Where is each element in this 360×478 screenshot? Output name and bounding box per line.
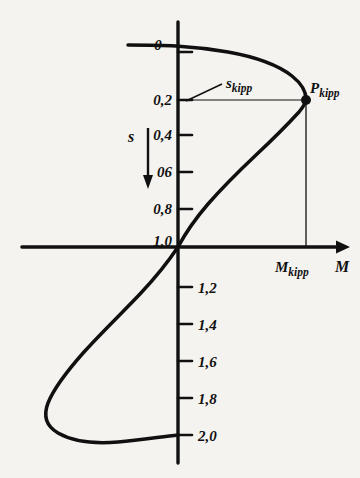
tick-label-s-0-2: 0,2 (153, 92, 172, 108)
p-kipp-point-marker (301, 95, 311, 105)
diagram-canvas: 0 0,2 0,4 06 0,8 1,0 1,2 1,4 1,6 1,8 2,0… (0, 0, 360, 478)
tick-label-s-2-0: 2,0 (197, 428, 217, 444)
curve-brake-branch (46, 247, 178, 443)
s-direction-arrow (143, 128, 153, 189)
tick-label-s-0: 0 (154, 37, 162, 53)
tick-label-s-1-8: 1,8 (198, 391, 217, 407)
tick-label-s-1-2: 1,2 (198, 280, 217, 296)
p-kipp-label: Pkipp (310, 80, 340, 100)
tick-label-s-1-0: 1,0 (153, 233, 172, 249)
guide-lines (178, 100, 306, 247)
m-axis-arrowhead (336, 241, 350, 254)
tick-label-s-0-6: 06 (157, 164, 173, 180)
tick-label-s-0-8: 0,8 (153, 201, 172, 217)
torque-slip-figure: 0 0,2 0,4 06 0,8 1,0 1,2 1,4 1,6 1,8 2,0… (0, 0, 360, 478)
m-kipp-label: Mkipp (274, 259, 309, 279)
tick-label-s-1-4: 1,4 (198, 317, 217, 333)
s-kipp-leader-line (186, 84, 222, 101)
tick-label-s-0-4: 0,4 (153, 127, 172, 143)
tick-label-s-1-6: 1,6 (198, 354, 217, 370)
s-kipp-label: skipp (225, 75, 253, 95)
s-axis-label: s (127, 128, 134, 145)
m-axis-label: M (334, 258, 350, 275)
